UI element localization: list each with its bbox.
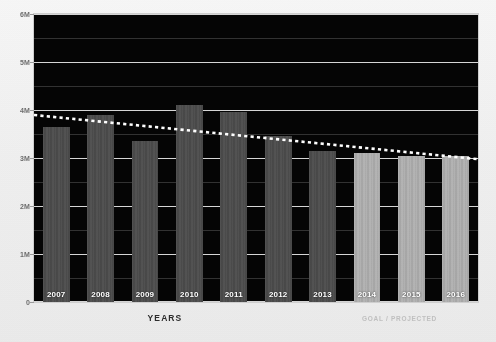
bar-2007[interactable]: 2007 bbox=[43, 127, 70, 302]
y-axis-tick-label: 4M bbox=[0, 107, 30, 114]
bar-label-2015: 2015 bbox=[398, 290, 425, 299]
y-axis-tick-mark bbox=[30, 110, 34, 111]
bar-2010[interactable]: 2010 bbox=[176, 105, 203, 302]
bar-label-2011: 2011 bbox=[220, 290, 247, 299]
bar-label-2012: 2012 bbox=[265, 290, 292, 299]
bar-2015[interactable]: 2015 bbox=[398, 156, 425, 302]
chart-title-strip bbox=[0, 0, 496, 12]
legend-goal-projected: GOAL / PROJECTED bbox=[362, 315, 437, 322]
y-axis-tick-label: 1M bbox=[0, 251, 30, 258]
y-axis-tick-mark bbox=[30, 62, 34, 63]
bar-label-2010: 2010 bbox=[176, 290, 203, 299]
bar-label-2007: 2007 bbox=[43, 290, 70, 299]
y-axis-tick-label: 5M bbox=[0, 59, 30, 66]
y-axis-tick-label: 6M bbox=[0, 11, 30, 18]
bar-2011[interactable]: 2011 bbox=[220, 112, 247, 302]
bar-label-2014: 2014 bbox=[354, 290, 381, 299]
y-axis-tick-mark bbox=[30, 14, 34, 15]
bar-group: 2007200820092010201120122013201420152016 bbox=[34, 14, 478, 302]
bar-label-2008: 2008 bbox=[87, 290, 114, 299]
x-axis-label: YEARS bbox=[0, 313, 330, 323]
y-axis-tick-label: 3M bbox=[0, 155, 30, 162]
y-axis-tick-mark bbox=[30, 206, 34, 207]
bar-2012[interactable]: 2012 bbox=[265, 136, 292, 302]
bar-2008[interactable]: 2008 bbox=[87, 115, 114, 302]
y-axis-tick-label: 0 bbox=[0, 299, 30, 306]
bar-label-2009: 2009 bbox=[132, 290, 159, 299]
bar-2013[interactable]: 2013 bbox=[309, 151, 336, 302]
chart-page: 2007200820092010201120122013201420152016… bbox=[0, 0, 496, 342]
bar-label-2016: 2016 bbox=[442, 290, 469, 299]
y-axis-tick-mark bbox=[30, 302, 34, 303]
y-axis-tick-mark bbox=[30, 158, 34, 159]
bar-2014[interactable]: 2014 bbox=[354, 153, 381, 302]
bar-label-2013: 2013 bbox=[309, 290, 336, 299]
y-axis-tick-label: 2M bbox=[0, 203, 30, 210]
bar-2016[interactable]: 2016 bbox=[442, 156, 469, 302]
y-axis-tick-mark bbox=[30, 254, 34, 255]
plot-area: 2007200820092010201120122013201420152016 bbox=[34, 14, 478, 302]
bar-2009[interactable]: 2009 bbox=[132, 141, 159, 302]
